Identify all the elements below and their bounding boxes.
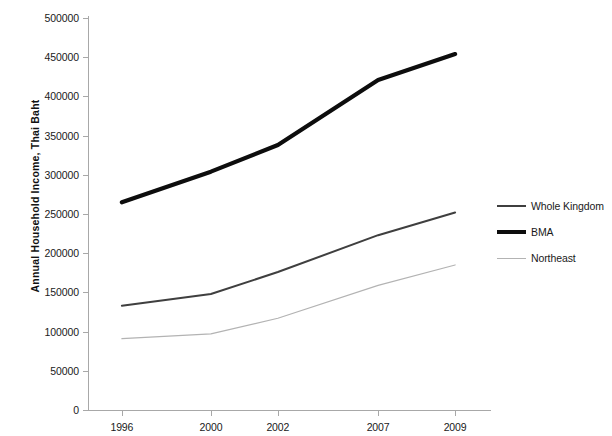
legend-item-northeast[interactable]: Northeast (497, 245, 609, 271)
series-line-whole-kingdom (122, 212, 455, 305)
chart-legend: Whole KingdomBMANortheast (497, 193, 609, 271)
legend-item-label: Northeast (531, 252, 576, 264)
legend-item-bma[interactable]: BMA (497, 219, 609, 245)
legend-swatch-icon (497, 205, 526, 207)
line-chart-figure: Annual Household Income, Thai Baht 05000… (0, 0, 612, 436)
legend-swatch-icon (497, 230, 526, 234)
legend-item-label: Whole Kingdom (531, 200, 604, 212)
series-line-northeast (122, 265, 455, 339)
legend-item-whole-kingdom[interactable]: Whole Kingdom (497, 193, 609, 219)
legend-swatch-icon (497, 258, 526, 259)
series-line-bma (122, 54, 455, 202)
legend-item-label: BMA (531, 226, 553, 238)
